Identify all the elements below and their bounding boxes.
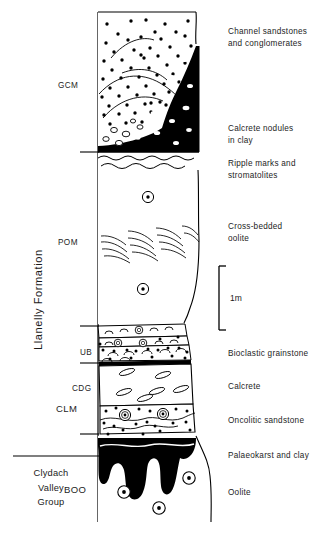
ooid-symbol (153, 502, 165, 514)
ooid-symbol (183, 472, 195, 484)
unit-oncolitic-sandstone (100, 404, 195, 436)
member-label-pom: POM (58, 237, 78, 250)
scale-bar (219, 266, 226, 330)
lithology-label-calcrete-nodules-2: in clay (228, 135, 253, 148)
unit-calcrete (99, 364, 193, 406)
ooid-symbol (118, 486, 130, 498)
formation-label: Llanelly Formation (32, 249, 44, 350)
lithology-label-oncolitic-sandstone: Oncolitic sandstone (228, 415, 304, 428)
lithology-label-channel-sandstones-1: Channel sandstones (228, 26, 307, 39)
lithology-label-channel-sandstones-2: and conglomerates (228, 38, 302, 51)
member-label-cdg: CDG (72, 383, 91, 396)
member-label-boo: BOO (64, 484, 86, 497)
unit-palaeokarst-and-oolite (98, 436, 211, 522)
lithology-label-ripple-marks-2: stromatolites (228, 170, 278, 183)
unit-ripple-marks-stromatolites (98, 152, 199, 170)
member-label-ub: UB (80, 347, 92, 360)
scale-bar-label: 1m (230, 293, 242, 303)
lithology-label-bioclastic-grainstone: Bioclastic grainstone (228, 348, 308, 361)
lithology-label-calcrete-nodules-1: Calcrete nodules (228, 123, 293, 136)
member-label-clm: CLM (56, 403, 77, 416)
lithology-label-palaeokarst: Palaeokarst and clay (228, 450, 309, 463)
lithology-label-calcrete: Calcrete (228, 381, 261, 394)
stratigraphic-column-figure: Llanelly Formation Clydach Valley Group … (0, 0, 333, 534)
lithology-label-ripple-marks-1: Ripple marks and (228, 158, 296, 171)
lithology-label-oolite: Oolite (228, 487, 251, 500)
member-label-gcm: GCM (58, 80, 78, 93)
ooid-symbol (142, 191, 153, 202)
ooid-symbol (137, 283, 148, 294)
lithology-label-cross-bedded-2: oolite (228, 233, 249, 246)
lithology-label-cross-bedded-1: Cross-bedded (228, 221, 282, 234)
unit-bioclastic-grainstone (98, 324, 191, 366)
unit-cross-bedded-oolite (98, 170, 199, 324)
